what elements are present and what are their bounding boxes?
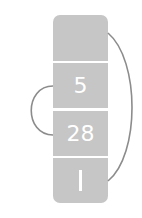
cell-i — [53, 158, 108, 203]
left-link-arc — [31, 86, 53, 135]
cell-label: 28 — [67, 123, 95, 145]
cell-28: 28 — [53, 111, 108, 156]
right-link-arc — [108, 33, 132, 181]
cell-stack: 5 28 — [53, 15, 108, 203]
cell-5: 5 — [53, 63, 108, 108]
cell-label: 5 — [74, 75, 88, 97]
cell-empty-top — [53, 15, 108, 61]
vertical-bar-glyph — [79, 170, 82, 191]
